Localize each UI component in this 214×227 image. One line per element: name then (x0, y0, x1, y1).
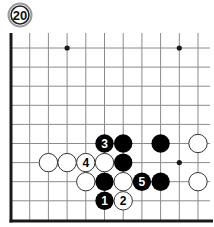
stone-disc (189, 173, 207, 191)
white-stone (95, 153, 113, 171)
stone-disc (114, 134, 132, 152)
black-stone (151, 173, 169, 191)
stone-disc (114, 153, 132, 171)
white-stone (77, 173, 95, 191)
board-edges (10, 33, 214, 223)
go-board: 20 34512 (0, 0, 214, 227)
star-point (177, 160, 182, 165)
black-stone (151, 134, 169, 152)
white-stone (58, 153, 76, 171)
white-stone (189, 134, 207, 152)
white-stone (114, 173, 132, 191)
move-number: 3 (101, 137, 108, 151)
stone-disc (189, 134, 207, 152)
black-stone-3: 3 (95, 134, 113, 152)
stone-disc (95, 153, 113, 171)
black-stone (114, 134, 132, 152)
board-grid (11, 33, 210, 221)
white-stone-4: 4 (77, 153, 95, 171)
stone-disc (58, 153, 76, 171)
black-stone-5: 5 (133, 173, 151, 191)
stone-disc (77, 173, 95, 191)
white-stone (39, 153, 57, 171)
stone-disc (95, 173, 113, 191)
star-point (177, 45, 182, 50)
black-stone (95, 173, 113, 191)
stone-disc (151, 173, 169, 191)
black-stone-1: 1 (95, 192, 113, 210)
move-number: 2 (120, 194, 127, 208)
stones-layer: 34512 (39, 134, 207, 210)
stone-disc (151, 134, 169, 152)
black-stone (114, 153, 132, 171)
stone-disc (114, 173, 132, 191)
move-number: 5 (139, 175, 146, 189)
star-point (65, 45, 70, 50)
move-number: 1 (101, 194, 108, 208)
stone-disc (39, 153, 57, 171)
problem-number-badge: 20 (9, 4, 32, 27)
move-number: 4 (82, 156, 89, 170)
white-stone-2: 2 (114, 192, 132, 210)
white-stone (189, 173, 207, 191)
problem-number: 20 (13, 8, 27, 23)
go-problem-diagram: 20 34512 (0, 0, 214, 227)
